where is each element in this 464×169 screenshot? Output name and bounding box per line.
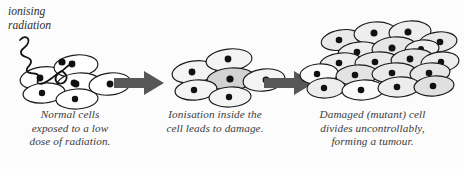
cell-nucleus bbox=[371, 30, 378, 37]
caption-line: Damaged (mutant) cell bbox=[295, 108, 450, 122]
cell-nucleus bbox=[191, 87, 197, 93]
caption-line: forming a tumour. bbox=[295, 135, 450, 149]
cell-nucleus bbox=[336, 60, 343, 67]
caption-normal-cells: Normal cells exposed to a low dose of ra… bbox=[0, 108, 140, 149]
cell-nucleus bbox=[430, 83, 437, 90]
cell-nucleus bbox=[352, 72, 359, 79]
caption-line: dose of radiation. bbox=[0, 135, 140, 149]
radiation-label-line2: radiation bbox=[8, 19, 51, 32]
caption-line: divides uncontrollably, bbox=[295, 122, 450, 136]
caption-line: Ionisation inside the bbox=[150, 108, 280, 122]
caption-tumour: Damaged (mutant) cell divides uncontroll… bbox=[295, 108, 450, 149]
cell-nucleus bbox=[107, 81, 114, 88]
cell-nucleus bbox=[321, 85, 327, 91]
cell-nucleus bbox=[39, 90, 45, 96]
cell-nucleus bbox=[69, 61, 76, 68]
caption-ionisation: Ionisation inside the cell leads to dama… bbox=[150, 108, 280, 135]
cell-nucleus bbox=[372, 59, 379, 66]
cell-nucleus bbox=[189, 69, 196, 76]
cell-nucleus bbox=[72, 96, 78, 102]
cell-nucleus bbox=[37, 75, 44, 82]
caption-line: Normal cells bbox=[0, 108, 140, 122]
cell-nucleus bbox=[389, 45, 396, 52]
cell-nucleus bbox=[426, 70, 433, 77]
caption-line: cell leads to damage. bbox=[150, 122, 280, 136]
radiation-label-line1: ionising bbox=[8, 5, 45, 18]
cell-nucleus bbox=[314, 71, 320, 77]
cell-nucleus bbox=[225, 56, 232, 63]
cell-nucleus bbox=[394, 84, 401, 91]
stage-ionised-cell: Ionisation inside the cell leads to dama… bbox=[150, 0, 280, 169]
cell-nucleus bbox=[336, 37, 343, 44]
cell-nucleus bbox=[358, 87, 365, 94]
cell-nucleus bbox=[226, 75, 233, 82]
ionising-radiation-label: ionising radiation bbox=[8, 5, 51, 33]
cell-nucleus bbox=[405, 29, 412, 36]
cell-nucleus bbox=[226, 94, 232, 100]
tumour-cell-cluster bbox=[295, 0, 464, 108]
cell-nucleus bbox=[73, 81, 80, 88]
cell-nucleus bbox=[407, 56, 414, 63]
caption-line: exposed to a low bbox=[0, 122, 140, 136]
stage-tumour: Damaged (mutant) cell divides uncontroll… bbox=[295, 0, 450, 169]
cell-nucleus bbox=[389, 70, 396, 77]
